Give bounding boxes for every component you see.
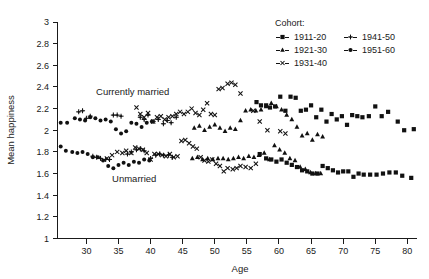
data-point bbox=[110, 153, 114, 157]
data-point bbox=[235, 166, 239, 170]
data-point bbox=[65, 121, 69, 125]
x-tick-label: 65 bbox=[306, 246, 316, 256]
plus-marker-core bbox=[143, 119, 145, 121]
data-point bbox=[335, 117, 339, 121]
data-point bbox=[195, 147, 199, 151]
y-tick-label: 2.8 bbox=[36, 39, 49, 49]
data-point bbox=[86, 152, 90, 156]
legend-label: 1951-60 bbox=[362, 45, 395, 55]
data-point bbox=[96, 155, 100, 159]
legend-entry-1941-50[interactable]: 1941-50 bbox=[344, 32, 395, 42]
plus-marker-core bbox=[130, 151, 132, 153]
y-tick-label: 2.4 bbox=[36, 82, 49, 92]
plus-marker-core bbox=[116, 114, 118, 116]
plus-marker-core bbox=[139, 116, 141, 118]
plus-marker-core bbox=[163, 154, 165, 156]
data-point bbox=[147, 159, 151, 163]
data-point bbox=[137, 161, 141, 165]
data-point bbox=[114, 127, 118, 131]
data-point bbox=[402, 128, 406, 132]
data-point bbox=[400, 174, 404, 178]
data-point bbox=[293, 158, 298, 162]
x-tick-label: 35 bbox=[113, 246, 123, 256]
data-point bbox=[216, 156, 221, 160]
data-point bbox=[356, 171, 360, 175]
data-point bbox=[274, 160, 278, 164]
data-point bbox=[140, 125, 144, 129]
x-tick-label: 80 bbox=[402, 246, 412, 256]
data-point bbox=[119, 114, 124, 119]
data-point bbox=[262, 150, 267, 154]
data-point bbox=[124, 129, 128, 133]
data-point bbox=[161, 121, 166, 126]
data-point bbox=[190, 107, 194, 111]
data-point bbox=[220, 86, 224, 90]
y-tick-label: 1.6 bbox=[36, 169, 49, 179]
data-point bbox=[290, 163, 294, 167]
data-point bbox=[93, 116, 97, 120]
data-point bbox=[320, 134, 325, 138]
legend-entry-1921-30[interactable]: 1921-30 bbox=[276, 45, 327, 55]
data-point bbox=[145, 121, 149, 125]
data-point bbox=[205, 101, 209, 105]
legend-entry-1911-20[interactable]: 1911-20 bbox=[276, 32, 326, 42]
plus-marker-core bbox=[78, 111, 80, 113]
y-tick-label: 1.4 bbox=[36, 191, 49, 201]
data-point bbox=[285, 161, 289, 165]
data-point bbox=[246, 153, 251, 157]
data-point bbox=[201, 108, 205, 112]
data-point bbox=[226, 166, 230, 170]
data-point bbox=[206, 160, 210, 164]
data-point bbox=[231, 156, 236, 160]
plus-marker-core bbox=[163, 123, 165, 125]
plus-marker-core bbox=[120, 115, 122, 117]
data-point bbox=[396, 119, 400, 123]
legend-entry-1951-60[interactable]: 1951-60 bbox=[344, 45, 395, 55]
data-point bbox=[91, 155, 95, 159]
y-tick-label: 2.2 bbox=[36, 104, 49, 114]
x-tick-label: 70 bbox=[338, 246, 348, 256]
data-point bbox=[78, 117, 82, 121]
series-1911-20-unmarried bbox=[258, 152, 414, 180]
data-point bbox=[212, 122, 217, 126]
data-point bbox=[233, 83, 237, 87]
data-point bbox=[368, 173, 372, 177]
data-point bbox=[259, 103, 263, 107]
data-point bbox=[258, 119, 262, 123]
data-point bbox=[289, 117, 294, 121]
data-point bbox=[283, 109, 287, 113]
data-point bbox=[321, 164, 325, 168]
data-point bbox=[132, 160, 136, 164]
legend-label: 1941-50 bbox=[362, 32, 395, 42]
series-1911-20-currently-married bbox=[254, 95, 415, 133]
data-point bbox=[355, 114, 359, 118]
data-point bbox=[326, 166, 330, 170]
plus-marker-core bbox=[170, 122, 172, 124]
data-point bbox=[243, 108, 248, 112]
data-point bbox=[386, 110, 390, 114]
data-point bbox=[299, 109, 303, 113]
data-point bbox=[360, 115, 364, 119]
series-1951-60-unmarried bbox=[59, 144, 152, 170]
series-1921-30-currently-married bbox=[192, 100, 325, 141]
data-point bbox=[104, 117, 108, 121]
chart-legend: Cohort:1911-201921-301931-401941-501951-… bbox=[275, 18, 395, 68]
data-point bbox=[134, 122, 138, 126]
data-point bbox=[202, 128, 207, 132]
data-point bbox=[64, 149, 68, 153]
legend-entry-1931-40[interactable]: 1931-40 bbox=[276, 58, 327, 68]
data-point bbox=[283, 131, 287, 135]
data-point bbox=[264, 156, 268, 160]
data-point bbox=[182, 112, 186, 116]
data-point bbox=[119, 132, 123, 136]
data-point bbox=[362, 173, 366, 177]
data-point bbox=[179, 139, 183, 143]
y-axis-title: Mean happiness bbox=[5, 95, 16, 165]
data-point bbox=[315, 132, 320, 136]
plus-marker-core bbox=[82, 110, 84, 112]
data-point bbox=[304, 108, 308, 112]
data-point bbox=[300, 133, 305, 137]
plus-marker-core bbox=[112, 114, 114, 116]
plus-marker-core bbox=[350, 36, 352, 38]
data-point bbox=[226, 157, 231, 161]
